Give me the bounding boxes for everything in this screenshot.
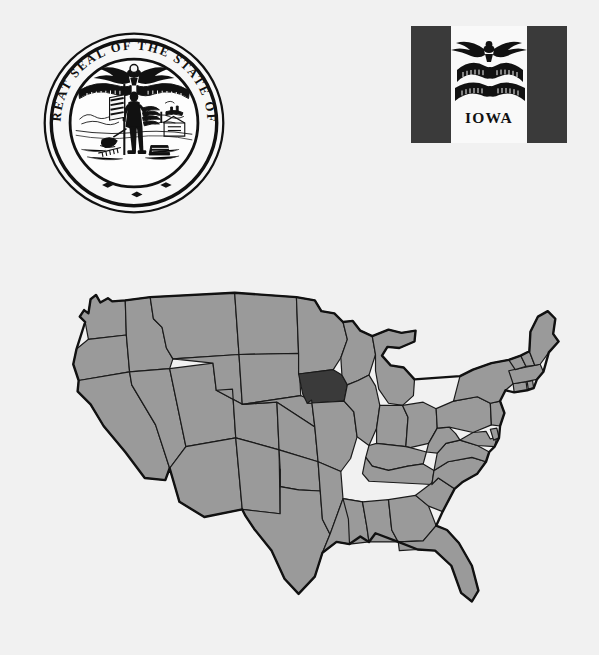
state-pennsylvania[interactable] bbox=[436, 397, 491, 433]
state-flag: IOWA bbox=[411, 26, 567, 143]
seal-flag-icon bbox=[110, 95, 125, 120]
state-seal: THE GREAT SEAL OF THE STATE OF IOWA bbox=[40, 28, 228, 218]
state-indiana[interactable] bbox=[377, 405, 408, 446]
state-minnesota[interactable] bbox=[296, 297, 347, 374]
iowa-symbols-plate: THE GREAT SEAL OF THE STATE OF IOWA bbox=[0, 0, 599, 655]
state-iowa highlight[interactable] bbox=[299, 370, 348, 404]
state-north-dakota[interactable] bbox=[235, 293, 299, 355]
flag-band-fly bbox=[527, 26, 567, 143]
state-new-mexico[interactable] bbox=[236, 438, 280, 514]
state-michigan[interactable] bbox=[372, 330, 415, 406]
flag-label: IOWA bbox=[465, 109, 513, 126]
seal-chimney bbox=[160, 112, 162, 123]
state-wisconsin[interactable] bbox=[341, 321, 376, 385]
flag-band-hoist bbox=[411, 26, 451, 143]
locator-map bbox=[44, 282, 564, 622]
map-states bbox=[73, 293, 558, 602]
state-new-york[interactable] bbox=[454, 360, 521, 403]
